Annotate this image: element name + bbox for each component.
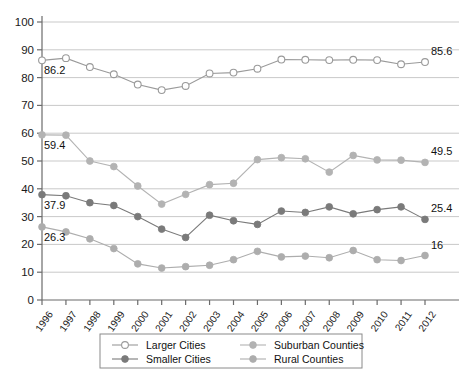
data-point (134, 81, 141, 88)
y-axis-tick-label: 10 (21, 266, 34, 278)
data-point (350, 152, 357, 159)
data-point (302, 155, 309, 162)
data-point (134, 260, 141, 267)
data-point (278, 208, 285, 215)
data-point (158, 87, 165, 94)
x-axis-tick-label: 2007 (297, 309, 319, 334)
x-axis-tick-label: 1998 (81, 309, 103, 334)
start-value-label: 59.4 (44, 139, 65, 151)
data-point (206, 181, 213, 188)
data-point (374, 156, 381, 163)
data-point (350, 56, 357, 63)
chart-canvas: 0102030405060708090100199619971998199920… (0, 0, 463, 371)
data-point (86, 235, 93, 242)
data-point (398, 61, 405, 68)
x-axis-tick-label: 1996 (33, 309, 55, 334)
legend-label: Rural Counties (274, 353, 343, 365)
y-axis-tick-label: 40 (21, 183, 34, 195)
x-axis-tick-label: 2012 (416, 309, 438, 334)
data-point (63, 132, 70, 139)
end-value-label: 25.4 (431, 202, 452, 214)
data-point (254, 65, 261, 72)
series-line (42, 135, 425, 204)
data-point (206, 212, 213, 219)
data-point (86, 64, 93, 71)
line-chart: 0102030405060708090100199619971998199920… (0, 0, 463, 371)
x-axis-tick-label: 2000 (129, 309, 151, 334)
y-axis-tick-label: 30 (21, 211, 34, 223)
data-point (422, 59, 429, 66)
series-suburban-counties (39, 131, 429, 207)
end-value-label: 49.5 (431, 145, 452, 157)
data-point (63, 55, 70, 62)
end-value-label: 85.6 (431, 45, 452, 57)
data-point (254, 221, 261, 228)
data-point (326, 57, 333, 64)
data-point (422, 252, 429, 259)
start-value-label: 86.2 (44, 64, 65, 76)
data-point (158, 226, 165, 233)
data-point (206, 70, 213, 77)
data-point (398, 257, 405, 264)
data-point (398, 203, 405, 210)
y-axis-tick-label: 60 (21, 127, 34, 139)
series-smaller-cities (39, 191, 429, 241)
data-point (374, 57, 381, 64)
data-point (398, 157, 405, 164)
x-axis-tick-label: 2011 (393, 309, 415, 333)
data-point (230, 69, 237, 76)
data-point (182, 234, 189, 241)
legend-marker-icon (122, 356, 129, 363)
data-point (158, 265, 165, 272)
data-point (374, 256, 381, 263)
data-point (39, 131, 46, 138)
data-point (278, 154, 285, 161)
data-point (326, 169, 333, 176)
end-value-label: 16 (431, 239, 443, 251)
data-point (278, 56, 285, 63)
y-axis-tick-label: 50 (21, 155, 34, 167)
y-axis-tick-label: 80 (21, 72, 34, 84)
data-point (86, 158, 93, 165)
data-point (182, 263, 189, 270)
x-axis-tick-label: 2002 (177, 309, 199, 334)
data-point (158, 201, 165, 208)
y-axis-tick-label: 100 (15, 16, 34, 28)
x-axis-tick-label: 1999 (105, 309, 127, 334)
data-point (350, 247, 357, 254)
legend-label: Smaller Cities (146, 353, 211, 365)
legend-marker-icon (122, 342, 129, 349)
data-point (326, 203, 333, 210)
legend-marker-icon (250, 342, 257, 349)
x-axis-tick-label: 2001 (153, 309, 175, 334)
x-axis-tick-label: 2003 (201, 309, 223, 334)
x-axis-tick-label: 1997 (57, 309, 79, 334)
x-axis-tick-label: 2009 (344, 309, 366, 334)
data-point (182, 191, 189, 198)
data-point (110, 163, 117, 170)
data-point (374, 206, 381, 213)
legend-label: Larger Cities (146, 339, 206, 351)
series-line (42, 195, 425, 238)
legend-marker-icon (250, 356, 257, 363)
data-point (134, 213, 141, 220)
data-point (110, 202, 117, 209)
y-axis-tick-label: 70 (21, 99, 34, 111)
data-point (326, 254, 333, 261)
y-axis-tick-label: 90 (21, 44, 34, 56)
data-point (39, 191, 46, 198)
data-point (422, 159, 429, 166)
data-point (134, 183, 141, 190)
data-point (230, 256, 237, 263)
data-point (110, 71, 117, 78)
series-larger-cities (39, 55, 429, 94)
data-point (230, 180, 237, 187)
data-point (302, 209, 309, 216)
start-value-label: 26.3 (44, 231, 65, 243)
data-point (206, 262, 213, 269)
data-point (350, 210, 357, 217)
data-point (110, 245, 117, 252)
series-rural-counties (39, 223, 429, 271)
data-point (302, 56, 309, 63)
data-point (230, 217, 237, 224)
